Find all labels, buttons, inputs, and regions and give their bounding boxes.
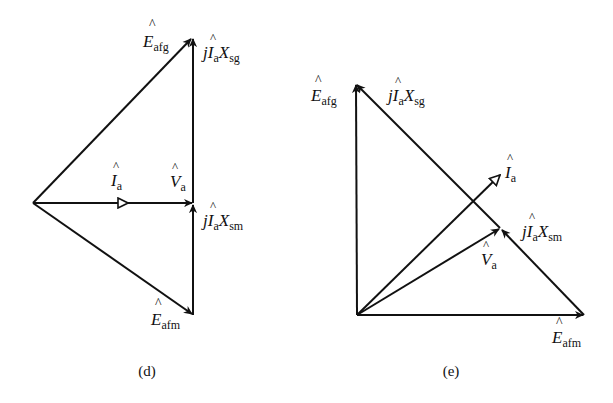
hat-i-a-d: ^ (113, 158, 119, 173)
hat-i-a-xsm-e: ^ (529, 209, 535, 224)
label-j-ia-xsm-d: jIaXsm (201, 211, 244, 233)
hat-e-afg-e: ^ (315, 73, 322, 88)
label-e-afg-e: Eafg (310, 86, 337, 108)
hat-v-a-e: ^ (483, 237, 489, 252)
label-v-a-e: Va (481, 250, 497, 272)
hat-i-a-e: ^ (507, 150, 513, 165)
label-j-ia-xsm-e: jIaXsm (520, 222, 563, 244)
hat-i-a-xsg-d: ^ (210, 30, 216, 45)
panel-e (356, 85, 584, 315)
label-j-ia-xsg-d: jIaXsg (201, 43, 240, 65)
hat-i-a-xsm-d: ^ (210, 198, 216, 213)
label-i-a-e: Ia (504, 163, 517, 185)
caption-e: (e) (443, 363, 460, 380)
phasor-v-a-e (357, 229, 499, 315)
hat-e-afm-e: ^ (556, 315, 563, 330)
label-v-a-d: Va (170, 172, 186, 194)
hat-v-a-d: ^ (172, 159, 178, 174)
label-i-a-d: Ia (110, 171, 123, 193)
label-e-afm-d: Eafm (150, 310, 181, 332)
panel-d-labels: Eafg ^ jIaXsg ^ Ia ^ Va ^ jIaXsm ^ Eafm … (110, 17, 244, 380)
label-e-afg-d: Eafg (142, 32, 169, 54)
phasor-e-afm-d (33, 203, 192, 314)
label-j-ia-xsg-e: jIaXsg (386, 86, 425, 108)
phasor-j-ia-xsg-e (357, 85, 500, 228)
hat-e-afm-d: ^ (155, 296, 162, 311)
phasor-e-afg-e (356, 85, 357, 315)
phasor-diagram-figure: Eafg ^ jIaXsg ^ Ia ^ Va ^ jIaXsm ^ Eafm … (0, 0, 613, 403)
caption-d: (d) (138, 363, 156, 380)
hat-i-a-xsg-e: ^ (395, 73, 401, 88)
hat-e-afg-d: ^ (149, 17, 156, 32)
label-e-afm-e: Eafm (551, 328, 582, 350)
phasor-j-ia-xsm-e (502, 230, 584, 315)
phasor-i-a-e (357, 175, 500, 315)
panel-e-labels: Eafg ^ jIaXsg ^ Ia ^ jIaXsm ^ Va ^ Eafm … (310, 73, 582, 380)
